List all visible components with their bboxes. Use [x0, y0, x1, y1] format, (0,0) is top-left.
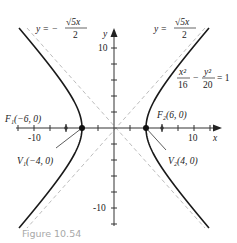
left-asymptote-label: y = − √5x 2: [35, 17, 87, 40]
y-tick-label-10: 10: [98, 43, 108, 53]
figure-caption: Figure 10.54: [22, 228, 81, 239]
svg-text:2: 2: [73, 30, 78, 40]
y-axis-label: y: [102, 29, 108, 39]
right-asymptote-label: y = √5x 2: [153, 17, 196, 40]
focus-f1-label: F₁(−6, 0): [4, 114, 41, 125]
x-axis-label: x: [212, 133, 218, 143]
svg-text:2: 2: [182, 30, 187, 40]
svg-text:y = −: y = −: [35, 24, 58, 34]
x-tick-label-10: 10: [188, 133, 198, 143]
svg-text:√5x: √5x: [175, 17, 190, 27]
focus-f1-point: [64, 124, 68, 132]
x-axis: [16, 125, 216, 131]
svg-text:y²: y²: [203, 67, 211, 77]
svg-text:20: 20: [203, 80, 213, 90]
hyperbola-equation: x² 16 − y² 20 = 1: [177, 67, 230, 90]
y-tick-label-neg10: -10: [93, 203, 106, 213]
x-tick-label-neg10: -10: [28, 133, 41, 143]
vertex-v2-label: V₂(4, 0): [168, 156, 198, 167]
y-axis-arrow-icon: [111, 28, 118, 37]
v2-leader-line: [146, 128, 166, 150]
svg-text:x²: x²: [178, 67, 186, 77]
svg-text:−: −: [193, 73, 198, 83]
svg-text:= 1: = 1: [217, 73, 230, 83]
svg-text:y =: y =: [153, 24, 167, 34]
vertex-v1-label: V₁(−4, 0): [17, 156, 53, 167]
svg-text:16: 16: [178, 80, 188, 90]
vertex-v2-point: [143, 125, 149, 131]
vertex-v1-point: [79, 125, 85, 131]
svg-text:√5x: √5x: [66, 17, 81, 27]
focus-f2-label: F₂(6, 0): [156, 110, 187, 121]
hyperbola-figure: -10 10 10 -10 x y F₁(−6, 0) F₂(6, 0) V₁(…: [0, 0, 237, 243]
focus-f2-point: [160, 124, 164, 132]
x-axis-arrow-icon: [213, 125, 222, 132]
